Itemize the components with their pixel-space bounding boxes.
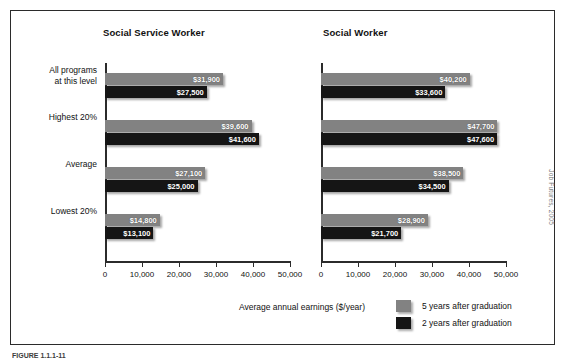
figure-caption: FIGURE 1.1.1-11 (12, 352, 66, 362)
figure: Social Service Worker All programs at th… (0, 0, 574, 364)
bar-2yr: $21,700 (321, 227, 401, 239)
category-label-1: Highest 20% (17, 112, 97, 123)
bar-value-label: $47,700 (467, 122, 494, 131)
bar-value-label: $41,600 (229, 135, 256, 144)
chart-frame: Social Service Worker All programs at th… (10, 10, 555, 345)
bar-5yr: $14,800 (105, 214, 160, 226)
bar-group: $39,600 $41,600 (105, 120, 290, 147)
bar-group: $14,800 $13,100 (105, 214, 290, 241)
x-axis-tick-label: 0 (319, 270, 323, 279)
x-axis-tick (216, 262, 217, 267)
legend-label-5yr: 5 years after graduation (422, 301, 512, 311)
bar-group: $27,100 $25,000 (105, 167, 290, 194)
x-axis-tick-label: 30,000 (420, 270, 444, 279)
category-label-2: Average (17, 159, 97, 170)
bar-2yr: $13,100 (105, 227, 153, 239)
plot-area-right: $40,200 $33,600 $47,700 $47,600 (321, 63, 506, 261)
x-axis-title: Average annual earnings ($/year) (239, 302, 365, 312)
bar-5yr: $28,900 (321, 214, 428, 226)
panel-social-worker: Social Worker $40,200 $33,600 $47,700 (301, 11, 556, 311)
category-label-3: Lowest 20% (17, 206, 97, 217)
x-axis-tick-label: 10,000 (346, 270, 370, 279)
bar-value-label: $31,900 (193, 75, 220, 84)
bar-2yr: $25,000 (105, 180, 198, 192)
bar-2yr: $41,600 (105, 133, 259, 145)
bar-value-label: $39,600 (221, 122, 248, 131)
bar-group: $47,700 $47,600 (321, 120, 506, 147)
bar-2yr: $47,600 (321, 133, 497, 145)
x-axis-tick (506, 262, 507, 267)
bar-2yr: $34,500 (321, 180, 449, 192)
bar-group: $31,900 $27,500 (105, 73, 290, 100)
x-axis-tick-label: 40,000 (241, 270, 265, 279)
x-axis-tick-label: 30,000 (204, 270, 228, 279)
x-axis-tick-label: 0 (103, 270, 107, 279)
category-label-0: All programs at this level (17, 65, 97, 86)
bar-group: $40,200 $33,600 (321, 73, 506, 100)
x-axis-tick-label: 10,000 (130, 270, 154, 279)
bar-value-label: $14,800 (130, 216, 157, 225)
bar-value-label: $28,900 (398, 216, 425, 225)
panel-title: Social Worker (323, 27, 387, 38)
x-axis-line (321, 261, 507, 263)
x-axis-tick (321, 262, 322, 267)
x-axis-tick (179, 262, 180, 267)
bar-5yr: $27,100 (105, 167, 205, 179)
bar-5yr: $47,700 (321, 120, 497, 132)
bar-5yr: $31,900 (105, 73, 223, 85)
bar-value-label: $33,600 (415, 88, 442, 97)
x-axis-tick (469, 262, 470, 267)
bar-2yr: $33,600 (321, 86, 445, 98)
bar-value-label: $38,500 (433, 169, 460, 178)
x-axis-tick (142, 262, 143, 267)
bar-value-label: $27,100 (175, 169, 202, 178)
panel-title: Social Service Worker (103, 27, 205, 38)
x-axis-tick (432, 262, 433, 267)
bar-2yr: $27,500 (105, 86, 207, 98)
x-axis-tick-label: 20,000 (383, 270, 407, 279)
legend-swatch-5yr (396, 300, 411, 312)
x-axis-line (105, 261, 291, 263)
x-axis-tick-label: 50,000 (278, 270, 302, 279)
bar-group: $28,900 $21,700 (321, 214, 506, 241)
panel-social-service-worker: Social Service Worker All programs at th… (11, 11, 301, 311)
x-axis-tick-label: 50,000 (494, 270, 518, 279)
bar-5yr: $38,500 (321, 167, 463, 179)
bar-5yr: $40,200 (321, 73, 470, 85)
bar-value-label: $40,200 (440, 75, 467, 84)
bar-value-label: $25,000 (167, 182, 194, 191)
bar-value-label: $27,500 (177, 88, 204, 97)
bar-value-label: $47,600 (467, 135, 494, 144)
bar-5yr: $39,600 (105, 120, 252, 132)
bar-value-label: $21,700 (371, 229, 398, 238)
legend-label-2yr: 2 years after graduation (422, 318, 512, 328)
x-axis-tick-label: 20,000 (167, 270, 191, 279)
x-axis-tick (395, 262, 396, 267)
x-axis-tick-label: 40,000 (457, 270, 481, 279)
x-axis-tick (290, 262, 291, 267)
source-credit: Job Futures, 2005 (548, 169, 555, 225)
plot-area-left: $31,900 $27,500 $39,600 $41,600 (105, 63, 290, 261)
bar-value-label: $13,100 (123, 229, 150, 238)
legend-swatch-2yr (396, 317, 411, 329)
bar-value-label: $34,500 (419, 182, 446, 191)
x-axis-tick (105, 262, 106, 267)
x-axis-tick (253, 262, 254, 267)
x-axis-tick (358, 262, 359, 267)
bar-group: $38,500 $34,500 (321, 167, 506, 194)
